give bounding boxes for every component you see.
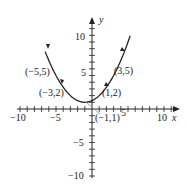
point-label: (−5,5) bbox=[25, 66, 50, 78]
x-tick-label: −10 bbox=[10, 112, 26, 123]
point-label: (−3,2) bbox=[39, 87, 64, 99]
x-tick-label: 5 bbox=[121, 107, 126, 118]
y-axis-arrow-icon bbox=[89, 17, 95, 24]
y-tick-label: −5 bbox=[73, 137, 84, 148]
point-label: (3,5) bbox=[114, 65, 133, 77]
curve-direction-arrow-icon bbox=[120, 47, 125, 51]
parabola-graph: −10 −5 5 10 x 10 5 −5 −10 y (−5,5) (−3,2… bbox=[0, 0, 188, 194]
x-tick-label: −5 bbox=[50, 112, 61, 123]
y-tick-label: 5 bbox=[81, 67, 86, 78]
y-tick-label: 10 bbox=[75, 31, 85, 42]
curve-direction-arrow-icon bbox=[46, 44, 50, 49]
y-tick-label: −10 bbox=[68, 170, 84, 181]
x-axis-label: x bbox=[171, 112, 177, 123]
y-axis-label: y bbox=[98, 14, 104, 25]
y-axis bbox=[89, 17, 95, 178]
point-label: (1,2) bbox=[102, 87, 121, 99]
point-label: (−1,1) bbox=[95, 112, 120, 124]
x-tick-label: 10 bbox=[157, 112, 167, 123]
